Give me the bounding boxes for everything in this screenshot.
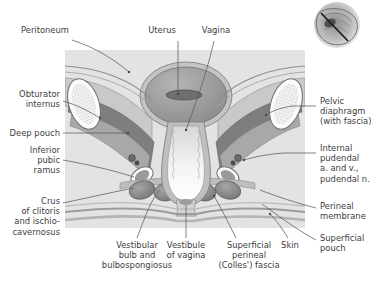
label-uterus: Uterus — [136, 25, 188, 35]
label-deep-pouch: Deep pouch — [0, 128, 60, 138]
label-peritoneum: Peritoneum — [0, 25, 90, 35]
uterine-cavity — [166, 90, 202, 100]
label-skin: Skin — [272, 240, 308, 250]
vagina — [162, 122, 211, 206]
label-internal-pudendal: Internal pudendal a. and v., pudendal n. — [320, 143, 377, 184]
orientation-thumbnail — [300, 0, 374, 50]
anatomy-figure: Peritoneum Uterus Vagina Obturator inter… — [0, 0, 377, 283]
label-vestibule-of-vagina: Vestibule of vagina — [157, 240, 215, 260]
label-obturator-internus: Obturator internus — [0, 89, 60, 109]
label-perineal-membrane: Perineal membrane — [320, 201, 377, 221]
label-crus-of-clitoris: Crus of clitoris and ischio- cavernosus — [0, 196, 60, 237]
label-vagina: Vagina — [190, 25, 242, 35]
label-superficial-pouch: Superficial pouch — [320, 233, 377, 253]
label-pelvic-diaphragm: Pelvic diaphragm (with fascia) — [320, 96, 377, 127]
uterus — [140, 62, 232, 130]
label-inferior-pubic-ramus: Inferior pubic ramus — [0, 145, 60, 176]
